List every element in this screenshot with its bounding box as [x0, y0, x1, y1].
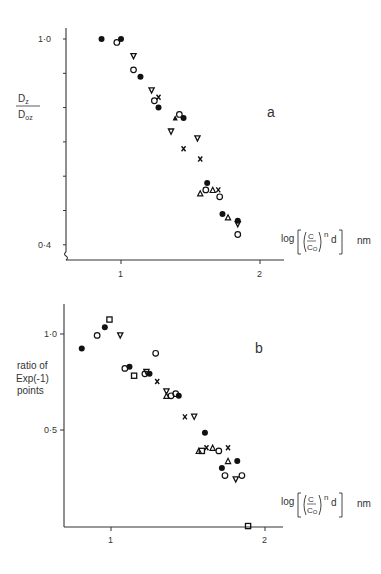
open-circle-marker — [235, 232, 241, 238]
svg-text:log: log — [281, 496, 294, 507]
open-triangle-down-marker — [118, 333, 123, 338]
open-circle-marker — [153, 350, 159, 356]
x-tick-label: 1 — [108, 535, 113, 545]
x-tick-label: 1 — [118, 269, 123, 279]
svg-text:d: d — [331, 234, 337, 245]
panel-a-x-ticks: 12 — [118, 260, 262, 279]
figure: 0·41·0 12 a Dz Doz log C CO n d nm 0·51·… — [0, 0, 381, 574]
cross-marker — [182, 146, 186, 151]
cross-marker — [226, 445, 230, 450]
panel-b-y-label: ratio of Exp(-1) points — [16, 360, 49, 396]
open-circle-marker — [114, 40, 120, 46]
svg-text:ratio of: ratio of — [17, 360, 48, 371]
svg-text:C: C — [308, 495, 314, 504]
open-triangle-down-marker — [192, 414, 197, 419]
svg-text:CO: CO — [307, 506, 318, 515]
x-tick-label: 2 — [262, 535, 267, 545]
filled-circle-marker — [234, 458, 240, 464]
panel-a-y-ticks: 0·41·0 — [38, 34, 66, 250]
open-triangle-up-marker — [210, 445, 215, 450]
panel-b-points — [79, 317, 251, 529]
svg-text:log: log — [281, 233, 294, 244]
open-triangle-up-marker — [210, 187, 215, 192]
filled-circle-marker — [204, 180, 210, 186]
open-circle-marker — [152, 98, 158, 104]
svg-text:nm: nm — [357, 498, 371, 509]
panel-b-label: b — [255, 340, 263, 356]
panel-b-x-label: log C CO n d nm — [281, 493, 371, 517]
open-triangle-down-marker — [168, 129, 173, 134]
open-circle-marker — [217, 194, 223, 200]
cross-marker — [198, 157, 202, 162]
cross-marker — [155, 379, 159, 384]
svg-text:n: n — [324, 230, 328, 239]
panel-a-x-label: log C CO n d nm — [281, 230, 371, 254]
y-tick-label: 1·0 — [44, 329, 57, 339]
cross-marker — [157, 95, 161, 100]
panel-a-label: a — [267, 104, 275, 120]
open-triangle-up-marker — [225, 458, 230, 463]
filled-circle-marker — [202, 430, 208, 436]
panel-a-axis-break — [65, 252, 68, 260]
open-square-marker — [132, 373, 137, 378]
panel-b-x-ticks: 12 — [108, 527, 267, 545]
open-circle-marker — [122, 366, 128, 372]
panel-a-y-label: Dz Doz — [16, 93, 40, 121]
open-circle-marker — [203, 187, 209, 193]
filled-circle-marker — [156, 105, 162, 111]
y-tick-label: 0·4 — [38, 240, 51, 250]
x-tick-label: 2 — [257, 269, 262, 279]
y-tick-label: 1·0 — [38, 34, 51, 44]
open-circle-marker — [177, 112, 183, 118]
svg-text:d: d — [331, 497, 337, 508]
open-triangle-down-marker — [131, 54, 136, 59]
filled-circle-marker — [219, 211, 225, 217]
svg-text:CO: CO — [307, 243, 318, 252]
filled-circle-marker — [99, 36, 105, 42]
filled-circle-marker — [102, 324, 108, 330]
cross-marker — [216, 187, 220, 192]
svg-text:C: C — [308, 232, 314, 241]
open-triangle-up-marker — [225, 215, 230, 220]
open-circle-marker — [94, 333, 100, 339]
open-circle-marker — [131, 67, 137, 73]
panel-a-points — [99, 36, 241, 237]
svg-text:Doz: Doz — [18, 109, 33, 121]
filled-circle-marker — [137, 74, 143, 80]
panel-b-chart: 0·51·0 12 b ratio of Exp(-1) points log … — [16, 304, 371, 545]
open-circle-marker — [216, 448, 222, 454]
open-triangle-down-marker — [195, 136, 200, 141]
open-circle-marker — [222, 473, 228, 479]
svg-text:points: points — [17, 385, 44, 396]
open-triangle-down-marker — [233, 477, 238, 482]
open-triangle-up-marker — [198, 191, 203, 196]
svg-text:Exp(-1): Exp(-1) — [16, 373, 49, 384]
svg-text:nm: nm — [357, 235, 371, 246]
filled-circle-marker — [79, 346, 85, 352]
open-triangle-down-marker — [149, 88, 154, 93]
svg-text:Dz: Dz — [18, 93, 29, 105]
svg-text:n: n — [324, 493, 328, 502]
filled-circle-marker — [219, 465, 225, 471]
open-square-marker — [107, 317, 112, 322]
panel-a-chart: 0·41·0 12 a Dz Doz log C CO n d nm — [16, 28, 371, 279]
open-circle-marker — [239, 473, 245, 479]
y-tick-label: 0·5 — [44, 425, 57, 435]
cross-marker — [183, 414, 187, 419]
open-square-marker — [245, 523, 250, 528]
